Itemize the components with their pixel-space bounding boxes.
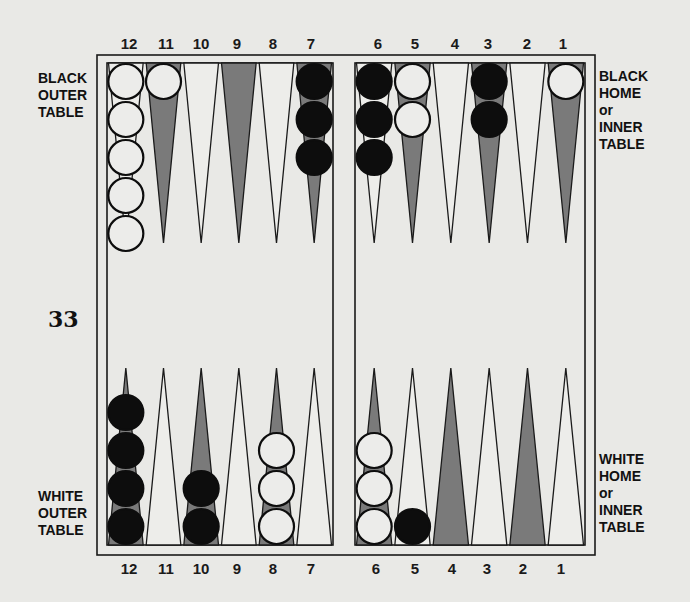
white-checker[interactable] bbox=[108, 178, 143, 213]
board-points bbox=[109, 63, 584, 545]
outer-table-frame bbox=[107, 63, 333, 545]
white-checker[interactable] bbox=[108, 216, 143, 251]
black-checker[interactable] bbox=[395, 509, 430, 544]
white-checker[interactable] bbox=[259, 471, 294, 506]
white-checker[interactable] bbox=[146, 64, 181, 99]
top-point-8[interactable] bbox=[259, 63, 294, 243]
black-checker[interactable] bbox=[357, 140, 392, 175]
black-checker[interactable] bbox=[297, 140, 332, 175]
top-point-9[interactable] bbox=[222, 63, 257, 243]
white-checker[interactable] bbox=[357, 433, 392, 468]
white-checker[interactable] bbox=[395, 102, 430, 137]
top-point-2[interactable] bbox=[510, 63, 545, 243]
black-checker[interactable] bbox=[357, 64, 392, 99]
black-checker[interactable] bbox=[357, 102, 392, 137]
black-checker[interactable] bbox=[472, 102, 507, 137]
white-checker[interactable] bbox=[259, 433, 294, 468]
board-checkers bbox=[108, 64, 583, 544]
bottom-point-7[interactable] bbox=[297, 368, 332, 545]
top-point-10[interactable] bbox=[184, 63, 219, 243]
bottom-point-9[interactable] bbox=[222, 368, 257, 545]
white-checker[interactable] bbox=[395, 64, 430, 99]
top-point-4[interactable] bbox=[433, 63, 468, 243]
bottom-point-1[interactable] bbox=[548, 368, 583, 545]
black-checker[interactable] bbox=[472, 64, 507, 99]
white-checker[interactable] bbox=[357, 471, 392, 506]
black-checker[interactable] bbox=[108, 433, 143, 468]
bottom-point-2[interactable] bbox=[510, 368, 545, 545]
bottom-point-11[interactable] bbox=[146, 368, 181, 545]
black-checker[interactable] bbox=[108, 509, 143, 544]
black-checker[interactable] bbox=[297, 64, 332, 99]
black-checker[interactable] bbox=[184, 509, 219, 544]
white-checker[interactable] bbox=[259, 509, 294, 544]
black-checker[interactable] bbox=[297, 102, 332, 137]
white-checker[interactable] bbox=[548, 64, 583, 99]
white-checker[interactable] bbox=[108, 102, 143, 137]
black-checker[interactable] bbox=[108, 395, 143, 430]
backgammon-board bbox=[0, 0, 690, 602]
white-checker[interactable] bbox=[357, 509, 392, 544]
bottom-point-3[interactable] bbox=[472, 368, 507, 545]
black-checker[interactable] bbox=[108, 471, 143, 506]
home-table-frame bbox=[355, 63, 585, 545]
black-checker[interactable] bbox=[184, 471, 219, 506]
bottom-point-4[interactable] bbox=[433, 368, 468, 545]
white-checker[interactable] bbox=[108, 64, 143, 99]
white-checker[interactable] bbox=[108, 140, 143, 175]
